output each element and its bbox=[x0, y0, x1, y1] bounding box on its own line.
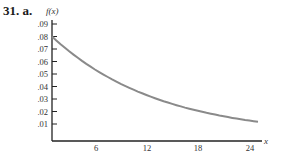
y-ticks: .01.02.03.04.05.06.07.08.09 bbox=[37, 19, 57, 129]
y-tick-label: .04 bbox=[37, 82, 48, 92]
x-tick-label: 12 bbox=[143, 143, 152, 153]
x-tick-label: 18 bbox=[194, 143, 203, 153]
x-tick-label: 6 bbox=[94, 143, 98, 153]
y-axis-label: f(x) bbox=[46, 6, 59, 16]
y-tick-label: .08 bbox=[37, 32, 48, 42]
x-ticks: 6121824 bbox=[94, 143, 255, 153]
y-tick-label: .01 bbox=[37, 119, 48, 129]
y-tick-label: .07 bbox=[37, 44, 48, 54]
y-tick-label: .02 bbox=[37, 107, 48, 117]
decay-chart: .01.02.03.04.05.06.07.08.09 6121824 f(x)… bbox=[0, 0, 281, 154]
y-tick-label: .06 bbox=[37, 57, 48, 67]
axes bbox=[52, 20, 262, 141]
y-tick-label: .03 bbox=[37, 94, 48, 104]
y-tick-label: .09 bbox=[37, 19, 48, 29]
x-tick-label: 24 bbox=[246, 143, 255, 153]
y-tick-label: .05 bbox=[37, 69, 48, 79]
x-axis-label: x bbox=[263, 136, 268, 146]
series-line-fx bbox=[52, 37, 258, 122]
